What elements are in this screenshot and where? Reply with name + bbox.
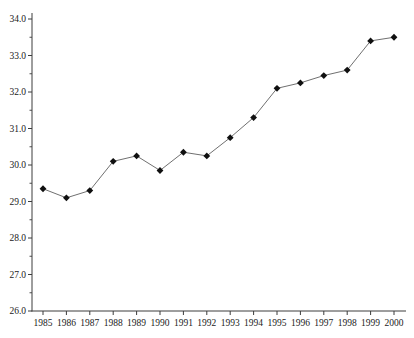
y-tick-label: 28.0 [9,233,26,243]
chart-page: 26.027.028.029.030.031.032.033.034.01985… [0,0,414,338]
y-tick-label: 26.0 [9,306,26,316]
line-chart: 26.027.028.029.030.031.032.033.034.01985… [0,0,414,338]
x-tick-label: 1992 [197,318,216,328]
x-tick-label: 1997 [314,318,333,328]
y-tick-label: 32.0 [9,87,26,97]
data-point-marker [391,34,398,41]
x-tick-label: 1998 [338,318,357,328]
data-point-marker [40,185,47,192]
x-tick-label: 1999 [361,318,380,328]
y-tick-label: 34.0 [9,14,26,24]
y-tick-label: 31.0 [9,124,26,134]
data-line [43,37,394,198]
data-point-marker [63,194,70,201]
x-tick-label: 1991 [174,318,193,328]
x-tick-label: 1986 [57,318,76,328]
data-point-marker [133,152,140,159]
y-tick-label: 29.0 [9,197,26,207]
x-tick-label: 1987 [80,318,99,328]
x-tick-label: 1985 [34,318,53,328]
data-point-marker [297,79,304,86]
x-tick-label: 1993 [221,318,240,328]
y-tick-label: 30.0 [9,160,26,170]
x-tick-label: 1996 [291,318,310,328]
x-tick-label: 1989 [127,318,146,328]
y-tick-label: 33.0 [9,51,26,61]
x-tick-label: 1994 [244,318,263,328]
x-tick-label: 2000 [385,318,404,328]
x-tick-label: 1988 [104,318,123,328]
x-tick-label: 1990 [151,318,170,328]
data-point-marker [320,72,327,79]
x-tick-label: 1995 [268,318,287,328]
y-tick-label: 27.0 [9,270,26,280]
